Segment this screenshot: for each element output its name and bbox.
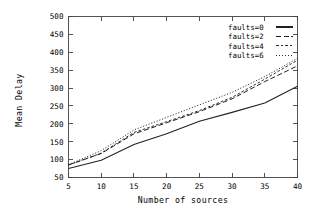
x-tick-label: 30	[227, 182, 237, 191]
chart-container: 50100150200250300350400450500 5101520253…	[0, 0, 317, 213]
x-tick-label: 10	[97, 182, 107, 191]
chart-legend: faults=0faults=2faults=4faults=6	[228, 23, 293, 60]
y-tick-label: 450	[50, 30, 64, 39]
legend-label-1: faults=2	[228, 32, 264, 41]
series-line-3	[69, 58, 298, 164]
y-axis-title: Mean Delay	[14, 73, 24, 126]
x-tick-label: 15	[129, 182, 138, 191]
x-axis-tick-labels: 510152025303540	[66, 182, 302, 191]
x-tick-label: 40	[293, 182, 303, 191]
y-tick-label: 350	[50, 66, 64, 75]
legend-label-0: faults=0	[228, 23, 264, 32]
y-tick-label: 200	[50, 120, 64, 129]
x-tick-label: 20	[162, 182, 172, 191]
x-tick-label: 5	[66, 182, 71, 191]
legend-label-3: faults=6	[228, 51, 264, 60]
y-tick-label: 250	[50, 102, 64, 111]
y-tick-label: 50	[54, 173, 64, 182]
line-chart: 50100150200250300350400450500 5101520253…	[0, 0, 317, 213]
y-tick-label: 100	[50, 155, 64, 164]
x-tick-label: 35	[260, 182, 269, 191]
y-tick-label: 400	[50, 48, 64, 57]
y-tick-label: 150	[50, 138, 64, 147]
legend-label-2: faults=4	[228, 42, 264, 51]
y-tick-label: 500	[50, 12, 64, 21]
y-tick-label: 300	[50, 84, 64, 93]
data-series-group	[69, 58, 298, 168]
series-line-0	[69, 86, 298, 168]
x-axis-title: Number of sources	[138, 195, 229, 205]
y-axis-tick-labels: 50100150200250300350400450500	[50, 12, 64, 182]
x-tick-label: 25	[195, 182, 204, 191]
series-line-1	[69, 66, 298, 165]
